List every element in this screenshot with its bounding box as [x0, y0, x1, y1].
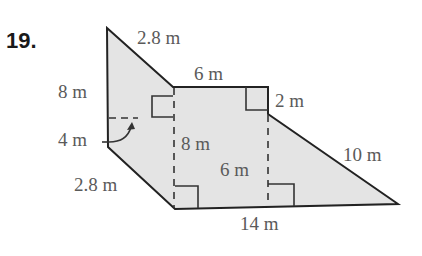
label-bottom-left-slant: 2.8 m [74, 174, 118, 195]
label-bottom: 14 m [240, 213, 279, 234]
label-right-step: 2 m [275, 90, 304, 111]
problem-number: 19. [6, 28, 37, 53]
composite-figure: 19. 2.8 m 6 m 2 m 10 m 8 m 4 m 2.8 m 8 m… [0, 0, 422, 256]
label-inner-left-height: 8 m [181, 133, 210, 154]
label-right-slant: 10 m [343, 144, 382, 165]
label-left-height: 8 m [58, 81, 87, 102]
geometry-problem: 19. 2.8 m 6 m 2 m 10 m 8 m 4 m 2.8 m 8 m… [0, 0, 422, 256]
label-left-small: 4 m [58, 129, 87, 150]
composite-shape [107, 28, 398, 209]
label-top-slant: 2.8 m [137, 27, 181, 48]
label-inner-right-height: 6 m [220, 159, 249, 180]
label-top: 6 m [194, 63, 223, 84]
